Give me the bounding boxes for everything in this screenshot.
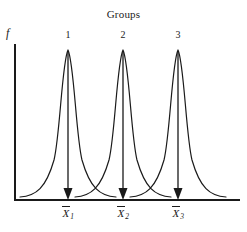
mean-symbol-3: X bbox=[172, 206, 180, 219]
mean-label-3: X3 bbox=[158, 206, 198, 223]
mean-label-1: X1 bbox=[48, 206, 88, 223]
group-number-1: 1 bbox=[56, 29, 80, 41]
group-number-3: 3 bbox=[166, 29, 190, 41]
mean-subscript-3: 3 bbox=[180, 212, 184, 221]
group-number-2: 2 bbox=[111, 29, 135, 41]
mean-symbol-1: X bbox=[62, 206, 70, 219]
mean-symbol-2: X bbox=[117, 206, 125, 219]
mean-arrow-head-1 bbox=[64, 188, 73, 200]
mean-subscript-2: 2 bbox=[125, 212, 129, 221]
mean-subscript-1: 1 bbox=[70, 212, 74, 221]
mean-label-2: X2 bbox=[103, 206, 143, 223]
statistics-figure: Groups f 1 2 3 X1 X2 X3 bbox=[0, 0, 247, 232]
mean-arrow-head-2 bbox=[119, 188, 128, 200]
mean-arrow-head-3 bbox=[174, 188, 183, 200]
